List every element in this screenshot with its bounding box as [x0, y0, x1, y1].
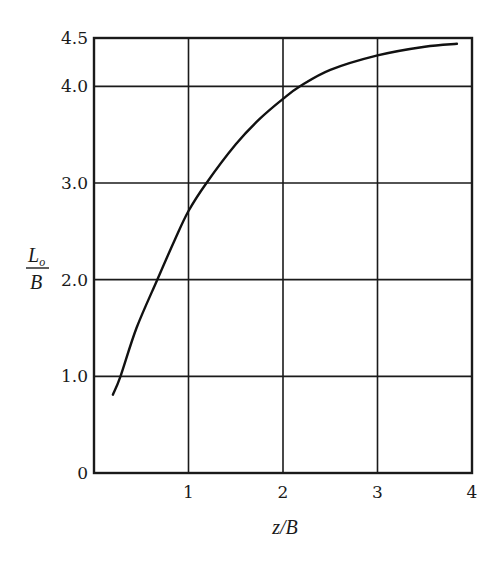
- x-tick-label: 1: [183, 482, 194, 502]
- y-tick-label: 4.0: [61, 76, 88, 96]
- y-axis-label-denominator: B: [30, 271, 42, 293]
- x-tick-label: 4: [467, 482, 478, 502]
- y-tick-label: 4.5: [61, 28, 88, 48]
- chart: 1234 01.02.03.04.04.5 z/B Lo B: [0, 0, 502, 562]
- y-tick-label: 3.0: [61, 173, 88, 193]
- x-tick-label: 3: [372, 482, 383, 502]
- y-axis-label: Lo B: [26, 244, 49, 293]
- y-tick-label: 1.0: [61, 366, 88, 386]
- x-tick-labels: 1234: [183, 482, 477, 502]
- series-line-lo-b: [113, 44, 457, 395]
- grid-lines: [94, 38, 472, 473]
- x-tick-label: 2: [278, 482, 289, 502]
- y-axis-label-numerator: Lo: [27, 244, 45, 269]
- y-tick-label: 0: [77, 463, 88, 483]
- y-label-subscript: o: [39, 255, 45, 269]
- y-tick-label: 2.0: [61, 270, 88, 290]
- x-axis-label: z/B: [271, 516, 298, 538]
- y-tick-labels: 01.02.03.04.04.5: [61, 28, 88, 483]
- y-label-letter: L: [27, 244, 39, 266]
